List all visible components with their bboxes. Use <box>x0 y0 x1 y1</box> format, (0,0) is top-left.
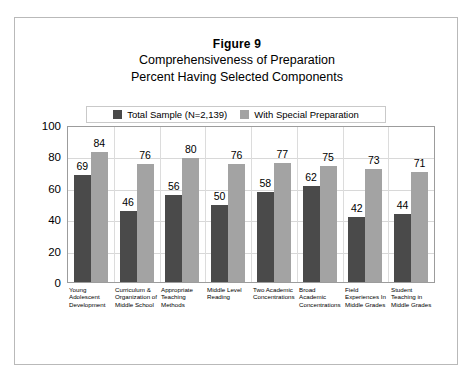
bar-value-label: 75 <box>322 152 334 163</box>
bar-total-sample[interactable]: 42 <box>348 217 365 282</box>
bar-special-preparation[interactable]: 76 <box>137 164 154 282</box>
bar-value-label: 46 <box>122 197 134 208</box>
bar-fill <box>348 217 365 282</box>
y-tick-80: 80 <box>27 152 61 163</box>
bar-fill <box>411 172 428 282</box>
bar-value-label: 42 <box>351 203 363 214</box>
bar-fill <box>228 164 245 282</box>
category-label: Student Teaching in Middle Grades <box>389 286 435 308</box>
bar-group: 4273 <box>343 127 389 282</box>
bar-value-label: 50 <box>214 191 226 202</box>
bar-group: 5877 <box>251 127 297 282</box>
bar-special-preparation[interactable]: 80 <box>182 158 199 282</box>
bar-special-preparation[interactable]: 76 <box>228 164 245 282</box>
bar-value-label: 73 <box>368 155 380 166</box>
bar-total-sample[interactable]: 62 <box>303 186 320 282</box>
y-tick-60: 60 <box>27 184 61 195</box>
category-label: Curriculum & Organization of Middle Scho… <box>113 286 159 308</box>
bar-value-label: 77 <box>277 149 289 160</box>
bar-special-preparation[interactable]: 77 <box>274 163 291 282</box>
plot-area-wrapper: 100806040200 698446765680507658776275427… <box>15 18 459 366</box>
bar-fill <box>137 164 154 282</box>
bar-group: 5076 <box>205 127 251 282</box>
bar-group: 6984 <box>68 127 114 282</box>
y-tick-0: 0 <box>27 278 61 289</box>
category-labels: Young Adolescent DevelopmentCurriculum &… <box>67 286 435 308</box>
plot-area: 69844676568050765877627542734471 <box>67 126 435 283</box>
y-tick-100: 100 <box>27 121 61 132</box>
bar-fill <box>182 158 199 282</box>
bar-fill <box>211 205 228 283</box>
bar-group: 4471 <box>388 127 434 282</box>
bar-value-label: 80 <box>185 144 197 155</box>
category-label: Broad Academic Concentrations <box>297 286 343 308</box>
bar-total-sample[interactable]: 56 <box>165 195 182 282</box>
bar-total-sample[interactable]: 44 <box>394 214 411 282</box>
bar-fill <box>365 169 382 282</box>
bar-value-label: 76 <box>139 150 151 161</box>
bar-fill <box>394 214 411 282</box>
category-label: Appropriate Teaching Methods <box>159 286 205 308</box>
bar-special-preparation[interactable]: 84 <box>91 152 108 282</box>
bar-value-label: 76 <box>231 150 243 161</box>
bar-fill <box>257 192 274 282</box>
bar-value-label: 58 <box>260 178 272 189</box>
bar-total-sample[interactable]: 46 <box>120 211 137 282</box>
figure-page: Figure 9 Comprehensiveness of Preparatio… <box>0 0 475 382</box>
bar-groups: 69844676568050765877627542734471 <box>68 127 434 282</box>
bar-total-sample[interactable]: 50 <box>211 205 228 283</box>
bar-fill <box>165 195 182 282</box>
bar-total-sample[interactable]: 58 <box>257 192 274 282</box>
bar-group: 4676 <box>114 127 160 282</box>
category-label: Young Adolescent Development <box>67 286 113 308</box>
bar-fill <box>74 175 91 282</box>
bar-fill <box>91 152 108 282</box>
bar-fill <box>320 166 337 282</box>
bar-fill <box>274 163 291 282</box>
bar-special-preparation[interactable]: 73 <box>365 169 382 282</box>
bar-group: 5680 <box>160 127 206 282</box>
bar-value-label: 44 <box>397 200 409 211</box>
y-tick-20: 20 <box>27 247 61 258</box>
bar-total-sample[interactable]: 69 <box>74 175 91 282</box>
bar-special-preparation[interactable]: 75 <box>320 166 337 282</box>
bar-value-label: 71 <box>414 158 426 169</box>
category-label: Two Academic Concentrations <box>251 286 297 308</box>
figure-frame: Figure 9 Comprehensiveness of Preparatio… <box>14 17 458 365</box>
bar-value-label: 56 <box>168 181 180 192</box>
y-tick-40: 40 <box>27 215 61 226</box>
bar-value-label: 84 <box>94 138 106 149</box>
bar-special-preparation[interactable]: 71 <box>411 172 428 282</box>
bar-value-label: 62 <box>305 172 317 183</box>
bar-group: 6275 <box>297 127 343 282</box>
bar-fill <box>120 211 137 282</box>
category-label: Field Experiences In Middle Grades <box>343 286 389 308</box>
bar-value-label: 69 <box>77 161 89 172</box>
bar-fill <box>303 186 320 282</box>
category-label: Middle Level Reading <box>205 286 251 308</box>
